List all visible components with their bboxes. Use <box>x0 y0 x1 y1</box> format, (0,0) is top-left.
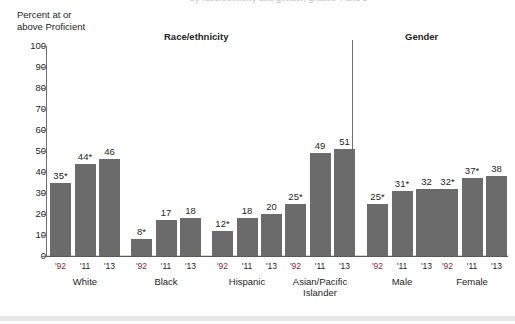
bar <box>237 218 258 256</box>
group-label: Hispanic <box>229 276 265 287</box>
x-tick-label: '92 <box>442 261 453 271</box>
x-tick-label: '92 <box>136 261 147 271</box>
bar <box>156 220 177 256</box>
bar-value-label: 17 <box>161 207 172 218</box>
group-label: Male <box>392 276 413 287</box>
x-tick-label: '11 <box>161 261 171 271</box>
bar <box>486 176 507 256</box>
x-axis-line <box>46 256 508 257</box>
bar <box>310 153 331 256</box>
bar-value-label: 46 <box>104 146 115 157</box>
bar <box>462 178 483 256</box>
group-label: Black <box>154 276 177 287</box>
group-label: White <box>73 276 97 287</box>
chart-page: by race/ethnicity and gender, grades 4 a… <box>0 0 515 324</box>
bar-value-label: 8* <box>137 226 146 237</box>
x-tick-label: '13 <box>339 261 350 271</box>
bar-value-label: 18 <box>242 205 253 216</box>
x-tick-label: '92 <box>217 261 228 271</box>
bottom-band <box>0 316 515 321</box>
bar-value-label: 31* <box>395 178 409 189</box>
bar-value-label: 12* <box>215 218 229 229</box>
x-tick-label: '13 <box>491 261 502 271</box>
section-header-gender: Gender <box>405 31 438 42</box>
bar-value-label: 20 <box>266 201 277 212</box>
bar-value-label: 49 <box>315 140 326 151</box>
bar <box>75 164 96 256</box>
x-tick-label: '11 <box>397 261 407 271</box>
bar <box>131 239 152 256</box>
bar <box>212 231 233 256</box>
x-tick-label: '11 <box>315 261 325 271</box>
x-tick-label: '92 <box>372 261 383 271</box>
x-tick-label: '13 <box>266 261 277 271</box>
bar-value-label: 51 <box>339 136 350 147</box>
bar <box>99 159 120 256</box>
x-tick-label: '11 <box>467 261 477 271</box>
bar <box>392 191 413 256</box>
y-axis-ticks: 0102030405060708090100 <box>0 0 46 324</box>
bar-value-label: 32 <box>421 176 432 187</box>
bar-value-label: 25* <box>370 191 384 202</box>
bar-value-label: 38 <box>491 163 502 174</box>
x-tick-label: '92 <box>55 261 66 271</box>
group-label: Asian/PacificIslander <box>293 276 347 298</box>
bar-value-label: 35* <box>53 170 67 181</box>
clipped-title-strip: by race/ethnicity and gender, grades 4 a… <box>0 0 515 8</box>
bar-value-label: 37* <box>465 165 479 176</box>
bar-value-label: 44* <box>78 151 92 162</box>
bar-value-label: 32* <box>440 176 454 187</box>
x-tick-label: '11 <box>80 261 90 271</box>
group-label: Female <box>456 276 488 287</box>
clipped-title-text: by race/ethnicity and gender, grades 4 a… <box>190 0 367 3</box>
x-tick-label: '13 <box>104 261 115 271</box>
bar <box>334 149 355 256</box>
section-header-race-ethnicity: Race/ethnicity <box>164 31 228 42</box>
bar-value-label: 18 <box>185 205 196 216</box>
x-tick-label: '92 <box>290 261 301 271</box>
bar <box>416 189 437 256</box>
bar <box>367 204 388 257</box>
bar <box>50 183 71 257</box>
bar <box>180 218 201 256</box>
x-tick-label: '13 <box>185 261 196 271</box>
bar <box>437 189 458 256</box>
bar-value-label: 25* <box>288 191 302 202</box>
bar <box>261 214 282 256</box>
x-tick-label: '11 <box>242 261 252 271</box>
x-tick-label: '13 <box>421 261 432 271</box>
bar <box>285 204 306 257</box>
